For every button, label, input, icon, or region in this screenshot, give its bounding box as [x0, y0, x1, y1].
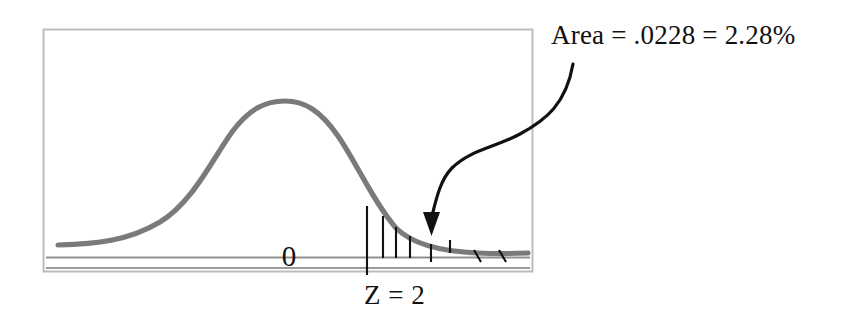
area-annotation-label: Area = .0228 = 2.28%: [551, 20, 795, 51]
mean-tick-label: 0: [282, 240, 297, 272]
curved-arrow-head: [423, 212, 440, 236]
normal-distribution-curve: [58, 101, 528, 254]
curved-arrow-line: [432, 64, 573, 216]
figure-canvas: 0 Area = .0228 = 2.28% Z = 2: [0, 0, 864, 326]
plot-frame: [44, 30, 533, 272]
z-value-label: Z = 2: [364, 280, 425, 311]
